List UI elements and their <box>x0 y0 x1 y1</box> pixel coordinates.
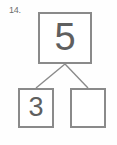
part-left-value: 3 <box>28 94 43 121</box>
connector-line-left <box>36 64 65 88</box>
part-box-right[interactable] <box>70 88 106 128</box>
number-bond-problem: 14. 5 3 <box>0 0 117 145</box>
whole-number-box[interactable]: 5 <box>38 12 92 64</box>
whole-number-value: 5 <box>54 18 75 56</box>
part-box-left[interactable]: 3 <box>18 88 54 128</box>
connector-line-right <box>65 64 88 88</box>
